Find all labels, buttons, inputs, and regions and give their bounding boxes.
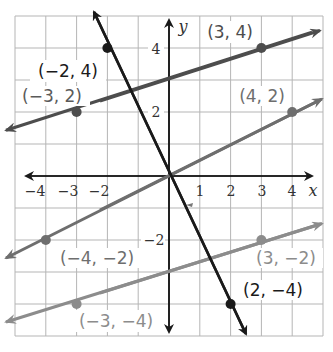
point-marker: [287, 107, 297, 117]
tick-x--3: −3: [58, 183, 79, 199]
label-point-3-4: (3, 4): [207, 22, 253, 42]
x-axis-label: x: [308, 181, 317, 200]
tick-y--2: −2: [144, 232, 165, 248]
tick-x--2: −2: [89, 183, 110, 199]
tick-y-4: 4: [152, 41, 161, 57]
tick-y-2: 2: [152, 104, 161, 120]
y-axis-label: y: [177, 17, 188, 36]
label-point-m2-4: (−2, 4): [38, 61, 98, 81]
label-point-m3-2: (−3, 2): [22, 86, 82, 106]
point-marker: [256, 235, 266, 245]
label-point-m4-m2: (−4, −2): [60, 248, 134, 268]
tick-x-2: 2: [227, 183, 236, 199]
label-point-2-m4: (2, −4): [243, 280, 303, 300]
label-point-4-2: (4, 2): [239, 86, 285, 106]
tick-x-1: 1: [196, 183, 205, 199]
tick-x-3: 3: [258, 183, 267, 199]
coordinate-plane: −4 −3 −2 1 2 3 4 x 4 2 −2 y: [0, 0, 333, 352]
point-marker: [226, 299, 236, 309]
point-marker: [256, 43, 266, 53]
point-marker: [102, 43, 112, 53]
tick-x-4: 4: [288, 183, 297, 199]
label-point-m3-m4: (−3, −4): [79, 311, 153, 331]
point-marker: [72, 107, 82, 117]
point-marker: [41, 235, 51, 245]
point-marker: [72, 299, 82, 309]
tick-labels: −4 −3 −2 1 2 3 4 x 4 2 −2 y: [25, 17, 318, 248]
tick-x--4: −4: [25, 183, 46, 199]
label-point-3-m2: (3, −2): [256, 248, 316, 268]
